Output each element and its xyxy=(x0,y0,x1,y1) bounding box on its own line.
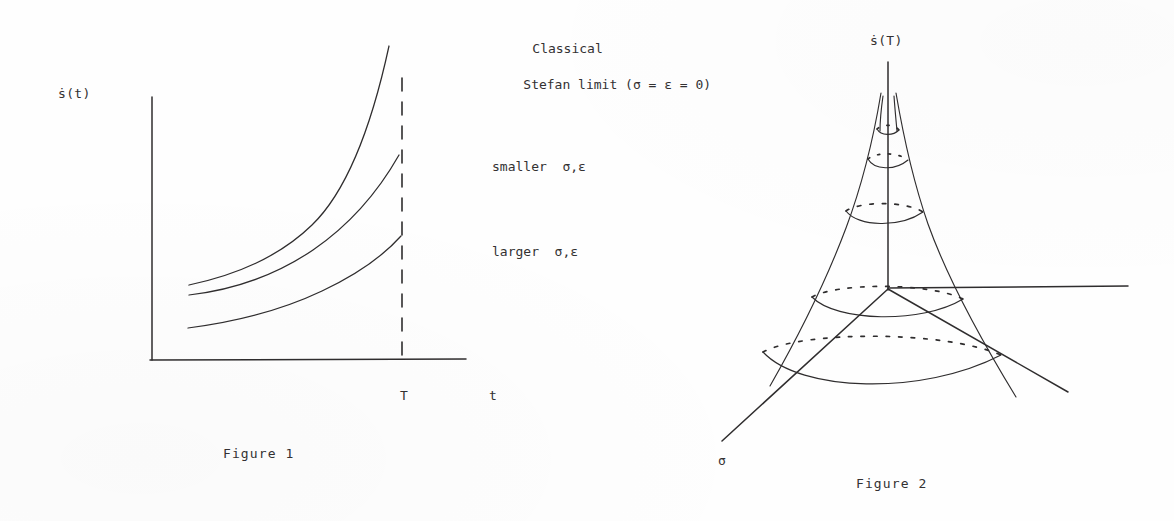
figure2-contour-3-back xyxy=(846,204,923,212)
figure1-x-axis-label: t xyxy=(489,387,497,404)
figure-2: ṡ(T) σ Figure 2 xyxy=(660,0,1174,521)
figure2-sigma-axis xyxy=(722,289,888,441)
figure1-x-axis xyxy=(150,359,466,360)
annotation-classical-line1: Classical xyxy=(532,41,602,56)
figure1-caption: Figure 1 xyxy=(223,446,294,461)
figure2-neck-right xyxy=(894,96,897,131)
annotation-smaller-sigma-epsilon: smaller σ,ε xyxy=(492,158,586,176)
figure2-vertical-axis-label: ṡ(T) xyxy=(870,32,903,49)
figure2-sigma-axis-label: σ xyxy=(718,452,726,469)
figure1-x-tick-label-T: T xyxy=(400,387,408,404)
figure1-curve-classical xyxy=(189,46,389,285)
figure-1: ṡ(t) T t Figure 1 xyxy=(0,0,520,430)
figure-2-drawing xyxy=(660,0,1174,521)
figure2-contour-4-front xyxy=(812,297,963,317)
figure2-epsilon-axis xyxy=(888,289,1068,392)
figure2-horizontal-axis xyxy=(888,286,1128,288)
annotation-larger-sigma-epsilon: larger σ,ε xyxy=(492,243,578,261)
figure1-y-axis-label: ṡ(t) xyxy=(58,85,91,102)
figure2-surface-left-wall xyxy=(770,93,881,386)
figure2-contour-5-back xyxy=(763,336,1001,355)
figure2-contour-3-front xyxy=(846,211,923,224)
figure1-curve-larger xyxy=(188,236,401,328)
figure2-neck-left xyxy=(880,96,883,131)
figure2-contour-5-front xyxy=(763,352,1001,384)
figure-1-drawing xyxy=(0,0,520,430)
figure1-curve-smaller xyxy=(189,155,399,295)
figure2-caption: Figure 2 xyxy=(856,476,927,491)
scanned-page: ṡ(t) T t Figure 1 Classical Stefan limit… xyxy=(0,0,1174,521)
